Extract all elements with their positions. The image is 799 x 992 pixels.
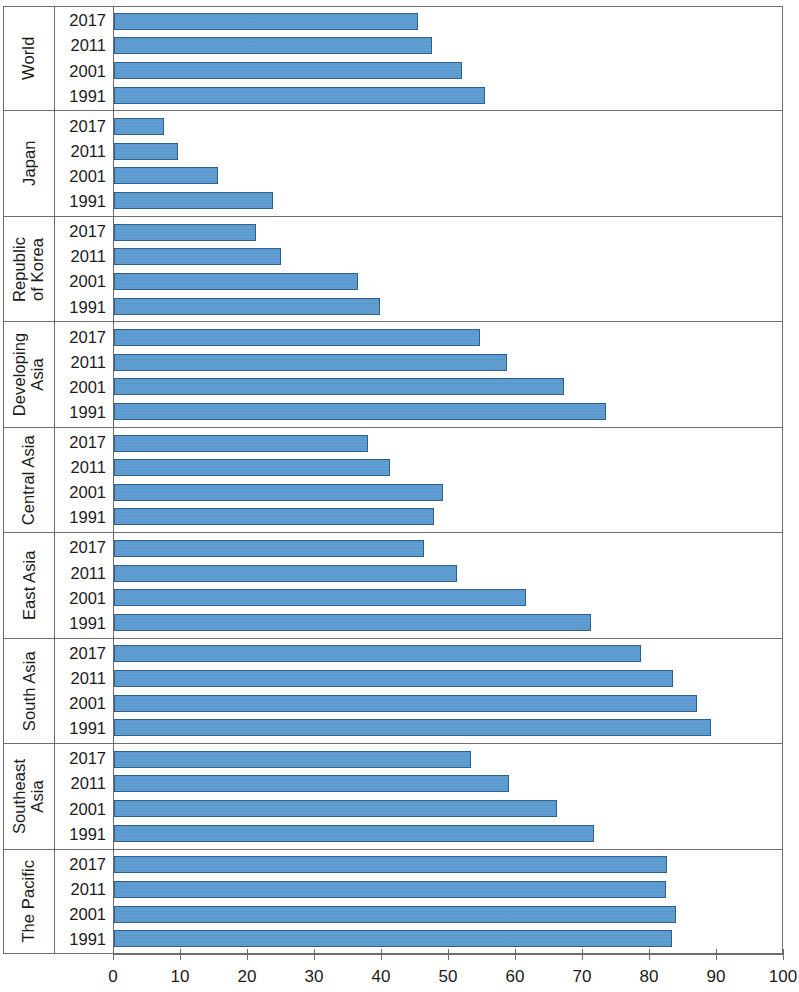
bar-row	[114, 715, 783, 740]
group-category-cell: South Asia	[3, 639, 55, 743]
year-label: 1991	[55, 294, 106, 319]
x-axis-tick	[448, 949, 449, 960]
year-label: 2011	[55, 560, 106, 585]
bar	[114, 930, 672, 947]
year-label: 2011	[55, 666, 106, 691]
bar-row	[114, 455, 783, 480]
bar	[114, 273, 358, 290]
bar-row	[114, 164, 783, 189]
x-axis: 0102030405060708090100	[3, 954, 783, 992]
chart-group: Japan2017201120011991	[3, 111, 783, 216]
group-plot-area	[113, 217, 783, 321]
x-axis-tick-label: 20	[238, 967, 257, 987]
year-label: 2011	[55, 33, 106, 58]
bar	[114, 614, 591, 631]
bar	[114, 906, 676, 923]
bar	[114, 248, 281, 265]
year-label: 1991	[55, 400, 106, 425]
x-axis-tick	[113, 949, 114, 960]
year-label: 1991	[55, 83, 106, 108]
x-axis-tick-label: 10	[171, 967, 190, 987]
group-plot-area	[113, 639, 783, 743]
group-year-labels: 2017201120011991	[55, 6, 113, 110]
bar	[114, 13, 418, 30]
x-axis-tick	[180, 949, 181, 960]
bar-row	[114, 853, 783, 878]
x-axis-tick-label: 50	[439, 967, 458, 987]
year-label: 2017	[55, 852, 106, 877]
year-label: 2017	[55, 113, 106, 138]
bar-row	[114, 220, 783, 245]
bar-row	[114, 294, 783, 319]
year-label: 2001	[55, 585, 106, 610]
chart-groups-container: World2017201120011991Japan20172011200119…	[3, 6, 783, 954]
group-year-labels: 2017201120011991	[55, 744, 113, 848]
year-label: 1991	[55, 927, 106, 952]
bar-row	[114, 642, 783, 667]
group-year-labels: 2017201120011991	[55, 217, 113, 321]
bar	[114, 825, 594, 842]
x-axis-tick	[649, 949, 650, 960]
bar	[114, 695, 697, 712]
bar-row	[114, 244, 783, 269]
group-plot-area	[113, 533, 783, 637]
year-label: 2001	[55, 375, 106, 400]
group-plot-area	[113, 322, 783, 426]
bar	[114, 719, 711, 736]
year-label: 2011	[55, 244, 106, 269]
bar-row	[114, 796, 783, 821]
year-label: 2017	[55, 430, 106, 455]
year-label: 1991	[55, 189, 106, 214]
bar	[114, 856, 667, 873]
bar-row	[114, 610, 783, 635]
year-label: 1991	[55, 821, 106, 846]
bar	[114, 37, 432, 54]
year-label: 2017	[55, 641, 106, 666]
year-label: 2001	[55, 796, 106, 821]
year-label: 2011	[55, 349, 106, 374]
bar	[114, 565, 457, 582]
bar	[114, 62, 462, 79]
bar-row	[114, 34, 783, 59]
x-axis-tick-label: 30	[305, 967, 324, 987]
x-axis-tick-label: 60	[506, 967, 525, 987]
bar-row	[114, 58, 783, 83]
year-label: 2011	[55, 455, 106, 480]
x-axis-tick	[381, 949, 382, 960]
year-label: 2017	[55, 324, 106, 349]
bar-row	[114, 561, 783, 586]
bar-row	[114, 926, 783, 951]
chart-group: Central Asia2017201120011991	[3, 428, 783, 533]
bar-row	[114, 188, 783, 213]
bar-row	[114, 691, 783, 716]
group-plot-area	[113, 6, 783, 110]
year-label: 2017	[55, 8, 106, 33]
year-label: 2017	[55, 219, 106, 244]
bar	[114, 670, 673, 687]
group-category-cell: Japan	[3, 111, 55, 215]
x-axis-tick	[515, 949, 516, 960]
chart-group: Developing Asia2017201120011991	[3, 322, 783, 427]
group-category-cell: World	[3, 6, 55, 110]
year-label: 2001	[55, 902, 106, 927]
chart-group: The Pacific2017201120011991	[3, 850, 783, 954]
group-category-cell: Republic of Korea	[3, 217, 55, 321]
bar	[114, 508, 434, 525]
chart-group: Republic of Korea2017201120011991	[3, 217, 783, 322]
bar-row	[114, 666, 783, 691]
bar	[114, 143, 178, 160]
bar-row	[114, 399, 783, 424]
bar-chart-figure: World2017201120011991Japan20172011200119…	[0, 0, 799, 992]
x-axis-tick-label: 80	[640, 967, 659, 987]
group-category-label: World	[19, 37, 37, 80]
year-label: 2001	[55, 164, 106, 189]
bar-row	[114, 877, 783, 902]
x-axis-tick	[582, 949, 583, 960]
x-axis-tick-label: 40	[372, 967, 391, 987]
bar-row	[114, 325, 783, 350]
group-year-labels: 2017201120011991	[55, 533, 113, 637]
group-category-label: Japan	[19, 141, 37, 186]
bar-row	[114, 350, 783, 375]
group-year-labels: 2017201120011991	[55, 322, 113, 426]
year-label: 1991	[55, 716, 106, 741]
